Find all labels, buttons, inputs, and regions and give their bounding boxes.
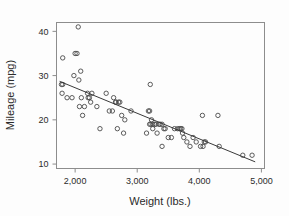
data-point — [70, 96, 74, 100]
data-point — [188, 144, 192, 148]
fit-line — [60, 81, 256, 162]
data-point — [61, 56, 65, 60]
x-axis-tick-labels: 2,0003,0004,0005,000 — [64, 176, 273, 186]
x-tick-label: 2,000 — [64, 176, 87, 186]
data-point — [151, 126, 155, 130]
data-point — [121, 131, 125, 135]
data-point — [119, 113, 123, 117]
regression-line — [60, 81, 256, 162]
data-point — [115, 126, 119, 130]
data-point — [111, 96, 115, 100]
data-point — [144, 131, 148, 135]
data-point — [95, 104, 99, 108]
scatter-plot-figure: 2,0003,0004,0005,000 10203040 Weight (lb… — [0, 0, 289, 216]
y-tick-label: 10 — [38, 159, 48, 169]
data-point — [76, 25, 80, 29]
data-point — [185, 140, 189, 144]
data-point-group — [59, 25, 254, 158]
y-axis-title: Mileage (mpg) — [4, 60, 16, 130]
y-tick-label: 30 — [38, 71, 48, 81]
data-point — [216, 113, 220, 117]
x-axis-ticks — [75, 169, 261, 173]
data-point — [148, 82, 152, 86]
data-point — [182, 135, 186, 139]
y-tick-label: 40 — [38, 27, 48, 37]
data-point — [79, 69, 83, 73]
data-point — [169, 135, 173, 139]
data-point — [80, 113, 84, 117]
data-point — [72, 73, 76, 77]
y-axis-tick-labels: 10203040 — [38, 27, 48, 170]
data-point — [79, 96, 83, 100]
data-point — [200, 113, 204, 117]
data-point — [110, 109, 114, 113]
data-point — [88, 100, 92, 104]
data-point — [82, 104, 86, 108]
data-point — [104, 91, 108, 95]
data-point — [77, 78, 81, 82]
data-point — [60, 91, 64, 95]
data-point — [77, 104, 81, 108]
data-point — [250, 153, 254, 157]
x-axis-title: Weight (lbs.) — [129, 195, 191, 207]
data-point — [160, 144, 164, 148]
x-tick-label: 5,000 — [250, 176, 273, 186]
data-point — [194, 140, 198, 144]
y-tick-label: 20 — [38, 115, 48, 125]
data-point — [98, 126, 102, 130]
data-point — [155, 131, 159, 135]
data-point — [65, 96, 69, 100]
chart-canvas: 2,0003,0004,0005,000 10203040 Weight (lb… — [0, 0, 289, 216]
y-axis-ticks — [53, 31, 57, 164]
data-point — [123, 118, 127, 122]
x-tick-label: 4,000 — [188, 176, 211, 186]
x-tick-label: 3,000 — [126, 176, 149, 186]
